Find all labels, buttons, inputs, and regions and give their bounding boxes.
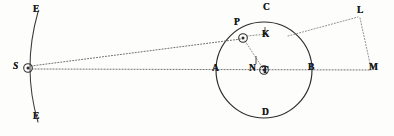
point-marker-p [239, 34, 248, 43]
label-m: M [369, 63, 378, 73]
label-a: A [212, 64, 219, 74]
label-l: L [357, 6, 364, 16]
deferent-arc [30, 12, 38, 122]
diagram-canvas [0, 0, 394, 136]
label-p: P [234, 18, 240, 28]
label-e-bottom: E [33, 112, 40, 122]
label-t: T [262, 66, 269, 76]
astronomical-diagram: E E S P C K L A N T B M D [0, 0, 394, 136]
label-e-top: E [33, 5, 40, 15]
line-l-to-m [360, 18, 371, 68]
label-b: B [308, 63, 315, 73]
point-marker-s [24, 64, 33, 73]
label-c: C [263, 3, 270, 13]
label-k: K [262, 30, 270, 40]
label-d: D [262, 108, 269, 118]
line-circle-to-l [288, 17, 358, 36]
label-s: S [13, 62, 19, 72]
label-n: N [249, 64, 256, 74]
line-s-to-m [32, 69, 371, 70]
line-s-to-p [31, 39, 241, 66]
